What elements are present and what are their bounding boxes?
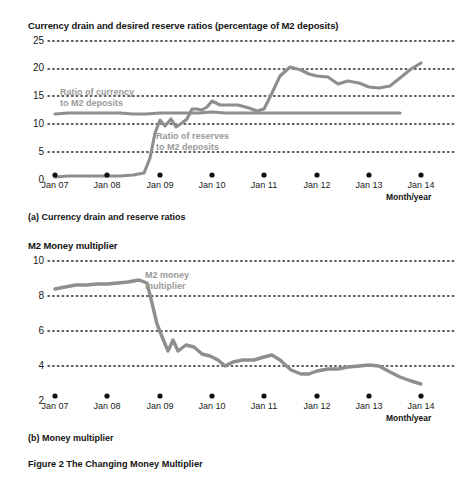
panel-b-xtick-jan07: Jan 07 xyxy=(33,401,77,411)
panel-b-label-multiplier-line2: multiplier xyxy=(145,281,186,291)
panel-b-xtick-jan12: Jan 12 xyxy=(295,401,339,411)
panel-b-caption: (b) Money multiplier xyxy=(28,433,114,443)
panel-b-xaxis-label: Month/year xyxy=(386,413,431,423)
panel-b-xtick-jan14: Jan 14 xyxy=(399,401,443,411)
panel-b-xtick-dots xyxy=(52,393,423,398)
panel-b-xtick-jan09: Jan 09 xyxy=(138,401,182,411)
panel-b-label-multiplier-line1: M2 money xyxy=(145,270,189,280)
panel-b-label-multiplier: M2 money multiplier xyxy=(145,270,189,291)
panel-b-gridlines xyxy=(48,261,456,366)
figure-title: Figure 2 The Changing Money Multiplier xyxy=(28,459,203,469)
panel-b-xtick-jan08: Jan 08 xyxy=(85,401,129,411)
panel-b-xtick-jan10: Jan 10 xyxy=(190,401,234,411)
panel-b-xtick-jan11: Jan 11 xyxy=(242,401,286,411)
figure-page: Currency drain and desired reserve ratio… xyxy=(0,0,472,483)
panel-b-xtick-jan13: Jan 13 xyxy=(347,401,391,411)
